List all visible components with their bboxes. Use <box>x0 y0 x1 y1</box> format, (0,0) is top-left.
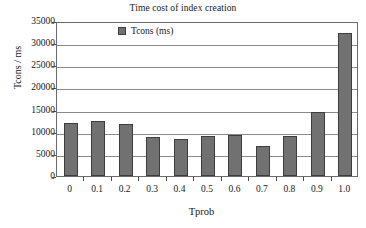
chart-legend: Tcons (ms) <box>118 26 173 36</box>
bar <box>228 135 242 176</box>
y-tick-label: 25000 <box>1 61 55 70</box>
x-tick-mark <box>276 177 277 181</box>
x-tick-mark <box>248 177 249 181</box>
gridline <box>57 45 357 46</box>
y-tick-label: 10000 <box>1 128 55 137</box>
bar <box>91 121 105 176</box>
x-tick-mark <box>221 177 222 181</box>
gridline <box>57 89 357 90</box>
bar <box>311 112 325 176</box>
x-tick-mark <box>166 177 167 181</box>
y-tick-mark <box>52 133 56 134</box>
y-tick-label: 20000 <box>1 83 55 92</box>
chart-figure: Time cost of index creation Tcons / ms 0… <box>0 0 366 228</box>
x-tick-mark <box>303 177 304 181</box>
plot-area <box>56 22 358 177</box>
chart-title: Time cost of index creation <box>0 3 366 13</box>
bar <box>201 136 215 176</box>
legend-swatch-tcons <box>118 27 126 35</box>
bar <box>174 139 188 176</box>
y-tick-label: 5000 <box>1 150 55 159</box>
y-tick-label: 30000 <box>1 39 55 48</box>
bar <box>256 146 270 176</box>
y-tick-mark <box>52 177 56 178</box>
x-tick-mark <box>138 177 139 181</box>
legend-label-tcons: Tcons (ms) <box>131 26 173 36</box>
x-tick-mark <box>83 177 84 181</box>
y-tick-label: 35000 <box>1 17 55 26</box>
bar <box>283 136 297 176</box>
y-tick-label: 0 <box>1 172 55 181</box>
bar <box>64 123 78 176</box>
x-tick-mark <box>331 177 332 181</box>
gridline <box>57 67 357 68</box>
y-tick-mark <box>52 111 56 112</box>
y-tick-mark <box>52 88 56 89</box>
x-tick-label: 1.0 <box>324 184 364 194</box>
y-tick-label: 15000 <box>1 106 55 115</box>
bar <box>119 124 133 176</box>
x-tick-mark <box>111 177 112 181</box>
bar <box>338 33 352 176</box>
bar <box>146 137 160 176</box>
y-tick-mark <box>52 44 56 45</box>
y-tick-mark <box>52 155 56 156</box>
y-tick-mark <box>52 66 56 67</box>
x-tick-mark <box>193 177 194 181</box>
x-axis-title: Tprob <box>45 206 358 217</box>
y-tick-mark <box>52 22 56 23</box>
